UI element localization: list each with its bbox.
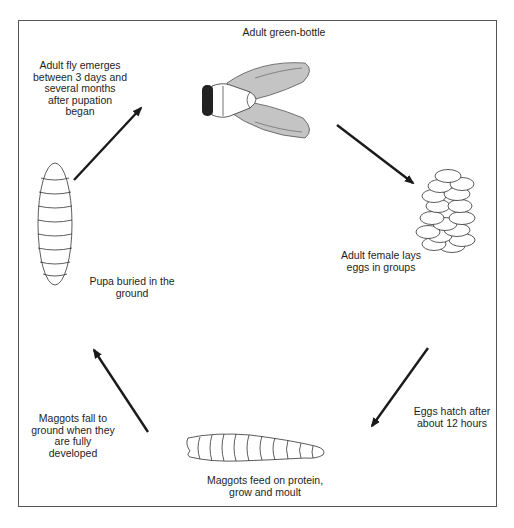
fly-icon <box>202 63 310 138</box>
label-adult: Adult green-bottle <box>214 27 354 39</box>
label-maggots-feed: Maggots feed on protein, grow and moult <box>195 475 335 498</box>
label-eggs: Adult female lays eggs in groups <box>316 250 446 273</box>
arrow-adult-to-eggs <box>337 125 413 183</box>
pupa-icon <box>38 163 72 285</box>
label-pupa: Pupa buried in the ground <box>82 276 182 299</box>
eggs-icon <box>416 170 475 253</box>
maggot-icon <box>187 434 324 461</box>
label-hatch: Eggs hatch after about 12 hours <box>402 406 502 429</box>
label-maggots-fall: Maggots fall to ground when they are ful… <box>24 413 122 459</box>
arrow-pupa-to-adult <box>74 108 141 180</box>
label-emergence: Adult fly emerges between 3 days and sev… <box>25 60 135 118</box>
